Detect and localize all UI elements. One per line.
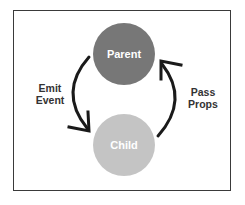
- cycle-diagram: Parent Child Emit Event Pass Props: [0, 0, 245, 205]
- parent-node: Parent: [93, 23, 155, 85]
- emit-event-label-line1: Emit: [39, 82, 62, 94]
- parent-label: Parent: [107, 48, 142, 60]
- emit-event-label-line2: Event: [36, 94, 65, 106]
- child-node: Child: [93, 114, 155, 176]
- child-label: Child: [110, 139, 138, 151]
- emit-event-arrow: [69, 57, 89, 131]
- pass-props-label: Pass Props: [188, 86, 218, 110]
- pass-props-label-line1: Pass: [191, 86, 216, 98]
- emit-event-label: Emit Event: [36, 82, 65, 106]
- emit-event-arrow-curve: [73, 57, 89, 128]
- pass-props-label-line2: Props: [188, 98, 218, 110]
- pass-props-arrow: [158, 61, 181, 136]
